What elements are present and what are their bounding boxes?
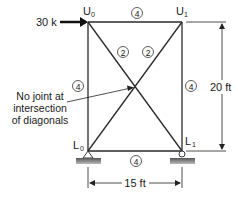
svg-text:4: 4 — [134, 157, 139, 167]
load-arrowhead-icon — [80, 17, 88, 27]
svg-text:2: 2 — [146, 48, 151, 58]
svg-text:U: U — [83, 5, 91, 17]
member-area-bottom: 4 — [131, 156, 142, 167]
node-label-l0: L 0 — [73, 139, 84, 152]
svg-text:L: L — [185, 135, 191, 147]
annotation-no-joint: No joint at intersection of diagonals — [12, 86, 134, 127]
svg-text:No joint at: No joint at — [16, 90, 63, 102]
svg-text:0: 0 — [91, 11, 95, 18]
svg-text:intersection: intersection — [13, 102, 67, 114]
svg-text:U: U — [176, 5, 184, 17]
member-area-left-vertical: 4 — [73, 81, 84, 92]
member-area-top: 4 — [132, 8, 143, 19]
node-label-u1: U 1 — [176, 5, 188, 18]
svg-text:of diagonals: of diagonals — [12, 114, 69, 126]
load-label: 30 k — [36, 16, 57, 28]
svg-text:2: 2 — [121, 48, 126, 58]
svg-text:L: L — [73, 139, 79, 151]
node-label-l1: L 1 — [185, 135, 196, 148]
support-roller-l1 — [170, 151, 195, 164]
svg-text:4: 4 — [189, 82, 194, 92]
member-area-diagonal-left: 2 — [118, 47, 129, 58]
svg-text:4: 4 — [135, 9, 140, 19]
svg-text:0: 0 — [80, 145, 84, 152]
svg-text:4: 4 — [76, 82, 81, 92]
height-label: 20 ft — [210, 81, 231, 93]
svg-text:1: 1 — [192, 141, 196, 148]
node-label-u0: U 0 — [83, 5, 95, 18]
truss-svg: 30 k U 0 U 1 L 0 L 1 4 4 4 4 2 2 No — [0, 0, 238, 198]
support-pin-l0 — [76, 151, 101, 164]
width-label: 15 ft — [124, 177, 145, 189]
member-area-right-vertical: 4 — [186, 81, 197, 92]
svg-text:1: 1 — [184, 11, 188, 18]
member-area-diagonal-right: 2 — [143, 47, 154, 58]
truss-diagram: 30 k U 0 U 1 L 0 L 1 4 4 4 4 2 2 No — [0, 0, 238, 198]
